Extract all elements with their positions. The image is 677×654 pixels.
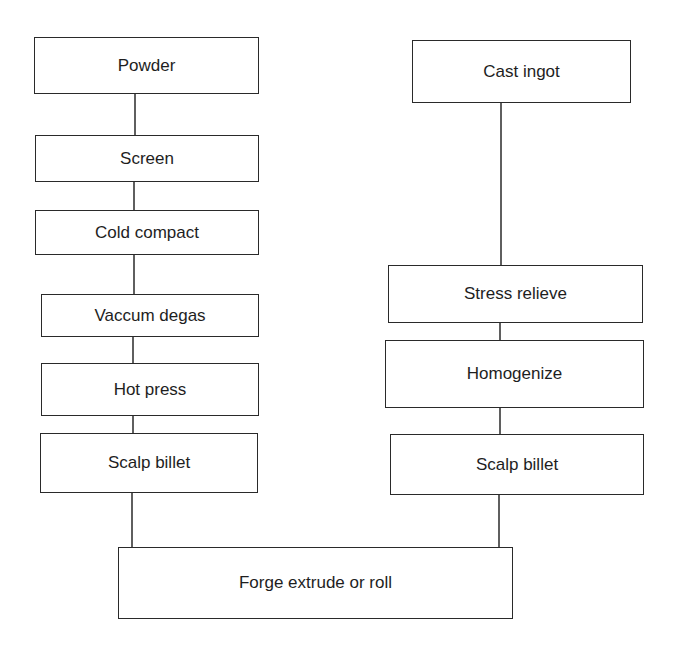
node-label: Screen bbox=[120, 149, 174, 169]
node-label: Powder bbox=[118, 56, 176, 76]
node-scalp-billet-right: Scalp billet bbox=[390, 434, 644, 495]
node-label: Forge extrude or roll bbox=[239, 573, 392, 593]
node-screen: Screen bbox=[35, 135, 259, 182]
node-label: Hot press bbox=[114, 380, 187, 400]
node-label: Scalp billet bbox=[476, 455, 558, 475]
node-label: Cold compact bbox=[95, 223, 199, 243]
node-cast-ingot: Cast ingot bbox=[412, 40, 631, 103]
node-stress-relieve: Stress relieve bbox=[388, 265, 643, 323]
node-label: Vaccum degas bbox=[94, 306, 205, 326]
process-flowchart: PowderScreenCold compactVaccum degasHot … bbox=[0, 0, 677, 654]
node-cold-compact: Cold compact bbox=[35, 210, 259, 255]
node-label: Stress relieve bbox=[464, 284, 567, 304]
node-vaccum-degas: Vaccum degas bbox=[41, 294, 259, 337]
node-powder: Powder bbox=[34, 37, 259, 94]
node-label: Homogenize bbox=[467, 364, 562, 384]
node-forge-extrude-roll: Forge extrude or roll bbox=[118, 547, 513, 619]
node-homogenize: Homogenize bbox=[385, 340, 644, 408]
node-scalp-billet-left: Scalp billet bbox=[40, 433, 258, 493]
node-label: Scalp billet bbox=[108, 453, 190, 473]
node-hot-press: Hot press bbox=[41, 363, 259, 416]
node-label: Cast ingot bbox=[483, 62, 560, 82]
